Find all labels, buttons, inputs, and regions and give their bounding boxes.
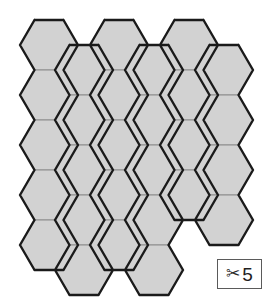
cut-count-label: 5 — [242, 265, 253, 284]
cut-counter-badge[interactable]: ✂ 5 — [217, 259, 262, 289]
scissors-icon: ✂ — [226, 265, 240, 282]
